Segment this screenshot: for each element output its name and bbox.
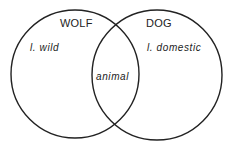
- wolf-set-title: WOLF: [60, 18, 93, 29]
- shared-attribute-animal: animal: [96, 72, 129, 82]
- wolf-attribute-wild: l. wild: [30, 43, 59, 53]
- dog-attribute-domestic: l. domestic: [147, 43, 201, 53]
- venn-diagram: WOLF DOG l. wild l. domestic animal: [0, 0, 230, 145]
- dog-set-title: DOG: [146, 18, 172, 29]
